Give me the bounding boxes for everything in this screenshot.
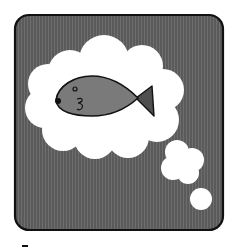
fish-nose — [55, 98, 61, 104]
thought-bubble-small — [190, 188, 212, 210]
illustration — [0, 0, 237, 249]
caption-mark — [22, 245, 28, 247]
